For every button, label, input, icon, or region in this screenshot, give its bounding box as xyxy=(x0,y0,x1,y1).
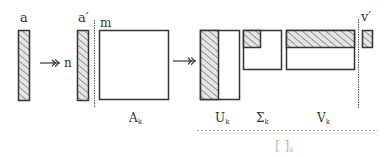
label-bracket-k: [ ]k xyxy=(275,140,294,156)
label-v-k: Vk xyxy=(317,112,330,128)
label-v-prime: v′ xyxy=(361,11,371,23)
vector-a xyxy=(19,31,30,101)
label-m: m xyxy=(100,17,111,29)
label-a: a xyxy=(20,12,28,24)
label-n: n xyxy=(64,57,72,69)
label-v-k-main: V xyxy=(317,111,326,125)
label-a-prime: a′ xyxy=(78,12,89,24)
label-sigma-k: Σk xyxy=(256,112,269,128)
label-u-k: Uk xyxy=(215,112,229,128)
label-a-k-subscript: k xyxy=(138,118,142,126)
label-a-k: Ak xyxy=(129,112,142,128)
matrix-a-k xyxy=(100,31,169,100)
vector-v-prime xyxy=(363,31,373,48)
matrix-u-k-hatched-columns xyxy=(201,31,219,100)
label-u-k-main: U xyxy=(215,111,225,125)
label-u-k-subscript: k xyxy=(225,118,229,126)
matrix-sigma-k-hatched-block xyxy=(244,31,261,48)
label-v-k-subscript: k xyxy=(326,118,330,126)
svd-diagram xyxy=(0,0,391,157)
label-a-k-main: A xyxy=(129,111,138,125)
label-bracket-subscript: k xyxy=(289,146,293,154)
matrix-v-k-hatched-rows xyxy=(287,31,355,48)
vector-a-prime xyxy=(78,31,89,101)
label-bracket-main: [ ] xyxy=(275,138,289,153)
label-sigma-k-subscript: k xyxy=(264,118,268,126)
